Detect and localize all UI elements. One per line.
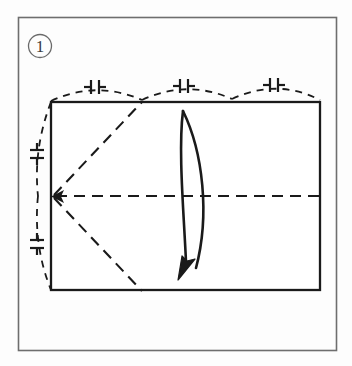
origami-diagram-panel: 1 [0, 0, 352, 366]
step-number-label: 1 [36, 37, 45, 56]
origami-diagram-canvas: 1 [0, 0, 352, 366]
